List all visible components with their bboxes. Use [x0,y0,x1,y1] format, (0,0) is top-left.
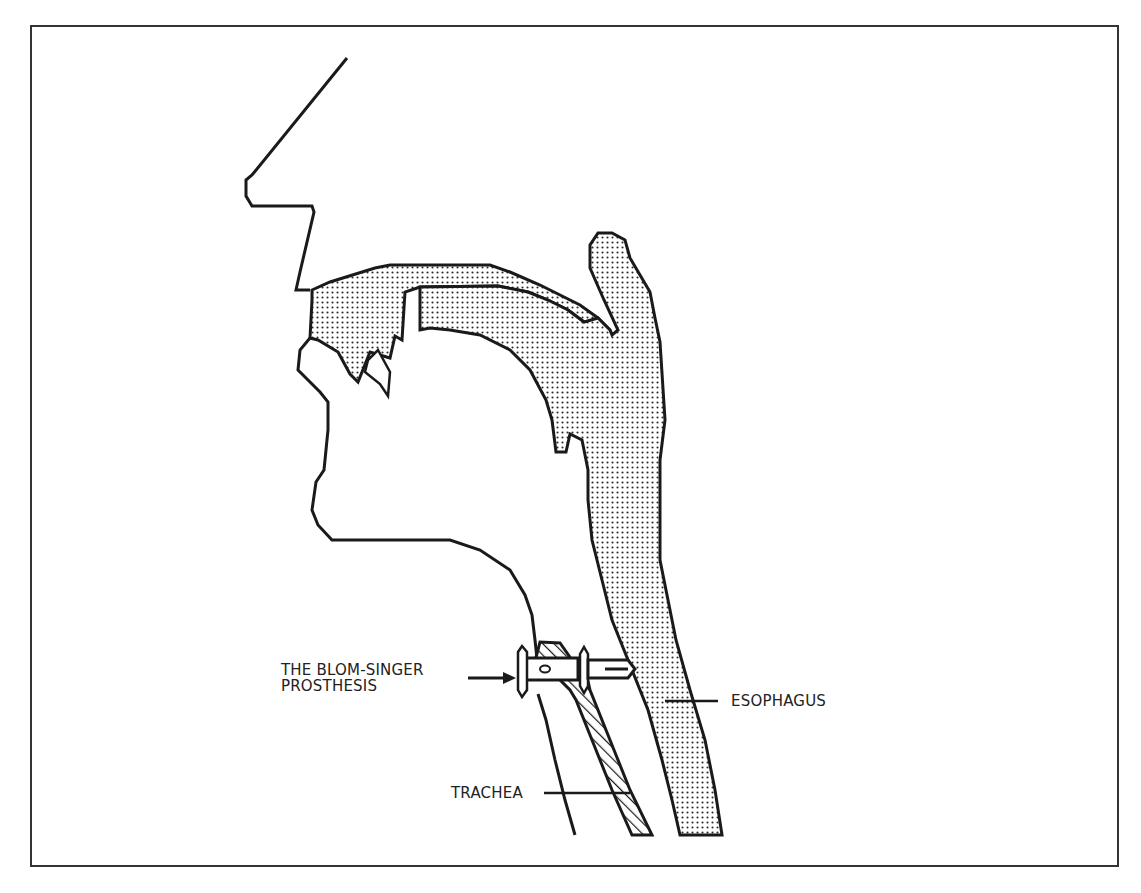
prosthesis-flange-left [518,646,527,697]
face-profile-outline [246,58,347,290]
trachea-label: TRACHEA [451,785,523,801]
neck-front-outline [538,694,575,835]
prosthesis-label-line2: PROSTHESIS [281,678,424,694]
prosthesis-label-line1: THE BLOM-SINGER [281,662,424,678]
esophagus-label: ESOPHAGUS [731,693,826,709]
prosthesis-valve-hole [540,666,550,673]
prosthesis-label: THE BLOM-SINGER PROSTHESIS [281,662,424,694]
esophagus-region [420,233,722,835]
chin-neck-outline [298,338,538,668]
anatomy-diagram [0,0,1141,893]
prosthesis-arrow [468,672,516,684]
